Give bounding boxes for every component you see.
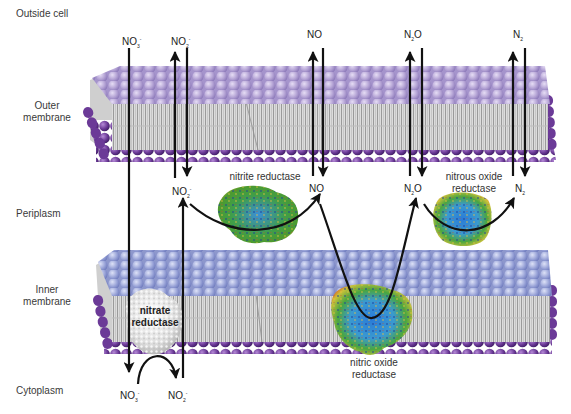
nitric-oxide-reductase-line-1: nitric oxide — [336, 357, 412, 369]
label-nitrous-oxide-reductase: nitrous oxide reductase — [432, 171, 516, 195]
species-n2-outside: N2 — [513, 30, 523, 44]
species-nitrate-cytoplasm: NO3- — [120, 388, 139, 405]
inner-membrane-line-2: membrane — [14, 296, 80, 308]
nitrous-oxide-reductase-structure — [433, 193, 491, 247]
species-nitrite-periplasm: NO2- — [172, 184, 191, 201]
nitrous-oxide-reductase-line-2: reductase — [432, 183, 516, 195]
outer-membrane-line-1: Outer — [14, 100, 80, 112]
species-nitrate-outside: NO3- — [122, 34, 141, 51]
nitrous-oxide-reductase-line-1: nitrous oxide — [432, 171, 516, 183]
nitric-oxide-reductase-line-2: reductase — [336, 369, 412, 381]
species-nitrite-cytoplasm: NO2- — [168, 388, 187, 405]
nitrate-reductase-line-2: reductase — [124, 317, 186, 329]
region-inner-membrane: Inner membrane — [14, 284, 80, 308]
nitrite-reductase-structure — [218, 186, 298, 244]
region-periplasm: Periplasm — [16, 208, 60, 220]
region-cytoplasm: Cytoplasm — [16, 385, 63, 397]
species-no-outside: NO — [307, 30, 322, 40]
nitrate-reductase-line-1: nitrate — [124, 305, 186, 317]
species-n2o-periplasm: N2O — [404, 184, 422, 198]
species-nitrite-outside: NO2- — [171, 34, 190, 51]
denitrification-diagram — [0, 0, 571, 414]
inner-membrane-line-1: Inner — [14, 284, 80, 296]
region-outer-membrane: Outer membrane — [14, 100, 80, 124]
species-n2o-outside: N2O — [404, 30, 422, 44]
nitrate-to-nitrite-curve — [138, 356, 176, 384]
label-nitrate-reductase: nitrate reductase — [124, 305, 186, 329]
species-n2-periplasm: N2 — [515, 184, 525, 198]
region-outside-cell: Outside cell — [16, 8, 68, 20]
label-nitric-oxide-reductase: nitric oxide reductase — [336, 357, 412, 381]
label-nitrite-reductase: nitrite reductase — [210, 171, 320, 183]
species-no-periplasm: NO — [309, 184, 324, 194]
outer-membrane-line-2: membrane — [14, 112, 80, 124]
